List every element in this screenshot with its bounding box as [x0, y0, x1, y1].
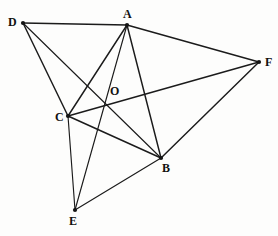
- vertex-dot-a: [125, 23, 129, 27]
- edge-dc: [23, 23, 68, 116]
- vertex-label-d: D: [8, 16, 17, 28]
- vertex-label-b: B: [162, 162, 170, 174]
- edge-ce: [68, 116, 75, 210]
- vertex-dot-f: [257, 60, 261, 64]
- vertex-label-a: A: [123, 8, 132, 20]
- edge-cf: [68, 62, 259, 116]
- vertex-dot-d: [21, 21, 25, 25]
- figure-svg: [0, 0, 278, 236]
- edge-af: [127, 25, 259, 62]
- vertex-label-f: F: [265, 56, 272, 68]
- vertex-label-o: O: [110, 85, 119, 97]
- edge-cb: [68, 116, 161, 158]
- vertex-dot-e: [73, 208, 77, 212]
- vertex-label-c: C: [55, 111, 64, 123]
- edge-db: [23, 23, 161, 158]
- vertex-label-e: E: [69, 215, 77, 227]
- edge-da: [23, 23, 127, 25]
- geometric-figure-canvas: DAFOCBE: [0, 0, 278, 236]
- vertex-dot-c: [66, 114, 70, 118]
- vertex-dot-b: [159, 156, 163, 160]
